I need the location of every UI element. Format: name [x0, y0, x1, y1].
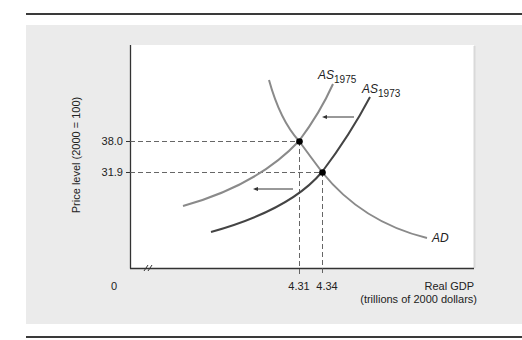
x-tick-4-31: 4.31: [288, 280, 309, 292]
x-axis-label-line2: (trillions of 2000 dollars): [360, 293, 477, 305]
x-tick-4-34: 4.34: [316, 280, 337, 292]
equilibrium-point-1975: [296, 138, 303, 145]
chart: AS1975 AS1973 AD 38.0 31.9 4.31 4.34 0 R…: [0, 0, 522, 340]
ad-label: AD: [431, 231, 449, 245]
y-tick-31-9: 31.9: [102, 166, 123, 178]
x-axis-label-line1: Real GDP: [424, 280, 474, 292]
plot-area: [130, 45, 474, 268]
y-axis-label: Price level (2000 = 100): [70, 97, 82, 213]
equilibrium-point-1973: [319, 169, 326, 176]
y-tick-38: 38.0: [102, 135, 123, 147]
origin-label: 0: [111, 280, 117, 292]
